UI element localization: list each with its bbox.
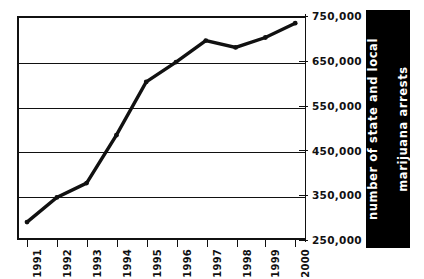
- data-point-1996: [174, 60, 179, 65]
- y-axis-title-box: number of state and localmarijuana arres…: [366, 10, 410, 248]
- data-point-1999: [263, 35, 268, 40]
- data-point-1995: [144, 80, 149, 85]
- y-axis-title-line1: number of state and local: [366, 11, 381, 247]
- data-point-1997: [203, 38, 208, 43]
- data-point-1993: [84, 181, 89, 186]
- chart-figure: 750,000 650,000 550,000 450,000 350,000 …: [0, 0, 424, 279]
- y-axis-title-inner: number of state and localmarijuana arres…: [367, 11, 409, 247]
- data-series-line: [0, 0, 424, 279]
- data-point-2000: [293, 21, 298, 26]
- series-polyline: [27, 23, 295, 222]
- data-point-1992: [54, 195, 59, 200]
- data-point-1991: [25, 220, 30, 225]
- data-point-1998: [233, 45, 238, 50]
- y-axis-title-text: number of state and localmarijuana arres…: [366, 11, 411, 247]
- data-point-1994: [114, 133, 119, 138]
- y-axis-title-line2: marijuana arrests: [396, 11, 411, 247]
